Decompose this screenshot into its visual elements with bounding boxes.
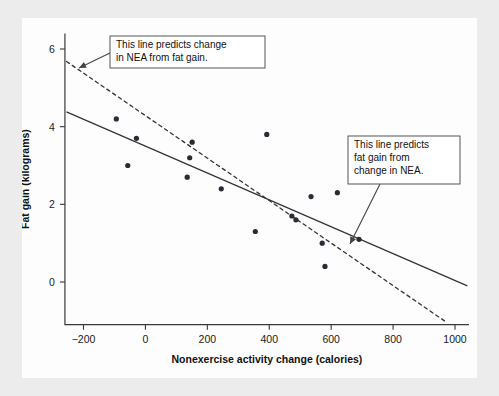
y-tick-label: 2 [49, 198, 55, 210]
y-axis-title: Fat gain (kilograms) [22, 129, 31, 229]
x-tick-label: 800 [384, 333, 402, 345]
scatter-plot: −200020040060080010000246Nonexercise act… [22, 18, 477, 378]
data-point [335, 190, 340, 195]
regression-line-dashed [66, 61, 447, 322]
data-point [356, 237, 361, 242]
data-point [293, 217, 298, 222]
data-point [219, 186, 224, 191]
data-point [320, 241, 325, 246]
x-tick-label: 400 [260, 333, 278, 345]
figure-card: −200020040060080010000246Nonexercise act… [22, 18, 477, 378]
figure-screenshot: −200020040060080010000246Nonexercise act… [0, 0, 499, 396]
dashed-line-callout-line: This line predicts change [116, 39, 227, 50]
x-tick-label: 1000 [443, 333, 467, 345]
data-point [264, 132, 269, 137]
solid-line-callout-line: This line predicts [354, 139, 429, 150]
data-point [185, 175, 190, 180]
dashed-line-callout-line: in NEA from fat gain. [116, 52, 208, 63]
data-point [308, 194, 313, 199]
x-tick-label: 200 [199, 333, 217, 345]
data-point [187, 155, 192, 160]
data-point [253, 229, 258, 234]
data-point [114, 116, 119, 121]
x-tick-label: 0 [142, 333, 148, 345]
data-point [322, 264, 327, 269]
y-tick-label: 0 [49, 276, 55, 288]
x-tick-label: −200 [72, 333, 96, 345]
y-tick-label: 6 [49, 43, 55, 55]
callout-leader-line [350, 184, 380, 244]
solid-line-callout-line: change in NEA. [354, 165, 424, 176]
data-point [134, 136, 139, 141]
x-axis-title: Nonexercise activity change (calories) [172, 353, 363, 365]
data-point [289, 213, 294, 218]
y-tick-label: 4 [49, 121, 55, 133]
data-point [125, 163, 130, 168]
x-tick-label: 600 [322, 333, 340, 345]
solid-line-callout-line: fat gain from [354, 152, 410, 163]
data-point [190, 140, 195, 145]
